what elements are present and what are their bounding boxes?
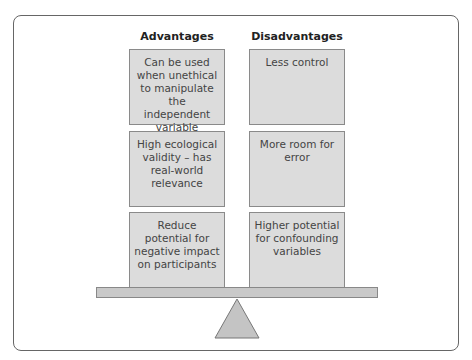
advantages-heading: Advantages [117, 30, 237, 43]
scale-beam [96, 287, 378, 298]
disadvantage-box-1: Less control [249, 49, 345, 125]
advantage-box-2: High ecological validity – has real-worl… [129, 131, 225, 207]
disadvantage-box-2: More room for error [249, 131, 345, 207]
advantage-box-3: Reduce potential for negative impact on … [129, 212, 225, 288]
disadvantages-heading: Disadvantages [237, 30, 357, 43]
fulcrum-triangle-icon [213, 298, 261, 340]
advantage-box-1: Can be used when unethical to manipulate… [129, 49, 225, 125]
disadvantage-box-3: Higher potential for confounding variabl… [249, 212, 345, 288]
